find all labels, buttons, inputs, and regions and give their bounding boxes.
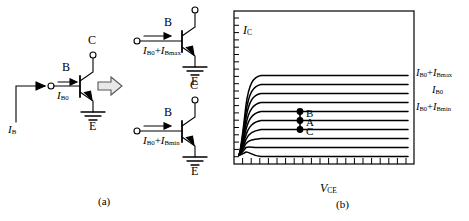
operating-point-dot-b (297, 108, 304, 115)
transform-block-arrow-icon (98, 77, 122, 95)
max-collector-lead (182, 13, 195, 36)
min-base-terminal-label: B (164, 106, 172, 118)
min-collector-terminal-node (192, 97, 198, 103)
max-base-current-arrow (144, 33, 171, 39)
operating-point-label-c: C (306, 126, 313, 137)
curve-label-max: IB0+IBmax (416, 68, 452, 79)
source-emitter-lead (80, 91, 93, 112)
min-base-current-arrow (144, 123, 171, 129)
max-collector-terminal-label: C (190, 0, 198, 1)
chart-x-axis-label: VCE (320, 182, 337, 195)
panel-b-caption: (b) (336, 199, 349, 210)
min-base-current-label: IB0+IBmin (143, 135, 180, 147)
curve-label-nominal: IB0 (432, 85, 443, 96)
chart-y-axis-label: IC (243, 24, 252, 37)
min-emitter-terminal-label: E (191, 165, 198, 177)
source-base-current-label: IB0 (57, 90, 69, 102)
figure-container: IB IB0 B C E IB0+IBmax B C E IB0+IBmin B… (0, 0, 469, 221)
min-emitter-lead (182, 136, 195, 157)
max-base-terminal-node (134, 38, 140, 44)
max-base-current-label: IB0+IBmax (143, 45, 181, 57)
panel-a-caption: (a) (98, 196, 110, 207)
source-collector-terminal-label: C (88, 34, 96, 46)
max-base-terminal-label: B (164, 16, 172, 28)
source-emitter-terminal-label: E (89, 120, 96, 132)
min-collector-terminal-label: C (190, 79, 198, 91)
chart-plot-frame (234, 11, 414, 164)
source-base-terminal-node (48, 83, 54, 89)
min-collector-lead (182, 103, 195, 126)
operating-point-dot-c (297, 126, 304, 133)
curve-label-min: IB0+IBmin (416, 102, 451, 113)
source-input-current-label: IB (8, 124, 16, 136)
source-input-lead (16, 82, 45, 122)
source-base-current-arrow (58, 79, 77, 85)
max-emitter-lead (182, 46, 195, 67)
source-collector-lead (80, 58, 93, 81)
max-collector-terminal-node (192, 7, 198, 13)
source-collector-terminal-node (90, 52, 96, 58)
operating-point-dot-a (297, 117, 304, 124)
min-base-terminal-node (134, 128, 140, 134)
source-base-terminal-label: B (62, 61, 70, 73)
